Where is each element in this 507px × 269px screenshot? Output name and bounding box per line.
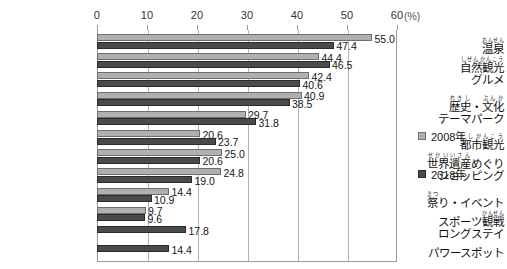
bar-value-label-5-series-1: 23.7 xyxy=(218,137,238,148)
category-label-10: ロングステイ xyxy=(412,229,507,241)
category-label-0: 温泉おんせん xyxy=(412,37,507,56)
legend-item-2018: 2018年 xyxy=(418,166,504,182)
chart-legend: 2008年 2018年 xyxy=(418,128,504,204)
bar-value-label-7-series-1: 19.0 xyxy=(195,176,215,187)
bar-8-series-1 xyxy=(97,195,152,202)
legend-label-2018: 2018年 xyxy=(431,166,466,182)
bar-0-series-0 xyxy=(97,34,372,41)
legend-item-2008: 2008年 xyxy=(418,128,504,144)
bar-5-series-1 xyxy=(97,138,216,145)
category-label-3: 歴史れきし・文化ぶんか xyxy=(412,95,507,114)
x-tick-label-50: 50 xyxy=(341,9,354,21)
bar-7-series-1 xyxy=(97,176,192,183)
x-tick-label-0: 0 xyxy=(94,9,100,21)
bar-9-series-0 xyxy=(97,207,146,214)
bar-10-series-1 xyxy=(97,226,186,233)
bar-5-series-0 xyxy=(97,130,200,137)
x-tick-mark-60 xyxy=(397,25,398,30)
x-axis-unit-label: (%) xyxy=(404,10,420,22)
bar-value-label-0-series-0: 55.0 xyxy=(375,34,395,45)
category-label-4: テーマパーク xyxy=(412,114,507,126)
bar-value-label-7-series-0: 24.8 xyxy=(224,168,244,179)
bar-0-series-1 xyxy=(97,42,334,49)
legend-swatch-icon-2018 xyxy=(418,170,426,178)
bar-value-label-11-series-1: 14.4 xyxy=(172,245,192,256)
bar-3-series-0 xyxy=(97,92,302,99)
bar-value-label-1-series-1: 46.5 xyxy=(332,60,352,71)
bar-1-series-0 xyxy=(97,53,319,60)
bar-2-series-1 xyxy=(97,80,300,87)
x-tick-label-60: 60 xyxy=(391,9,404,21)
category-label-11: パワースポット xyxy=(412,248,507,260)
x-axis: 0102030405060 (%) xyxy=(0,0,507,30)
category-label-9: スポーツ観戦かんせん xyxy=(412,210,507,229)
bar-6-series-1 xyxy=(97,157,200,164)
bar-value-label-8-series-1: 10.9 xyxy=(154,195,174,206)
bar-3-series-1 xyxy=(97,99,290,106)
bar-chart: 0102030405060 (%) 温泉おんせん自然観光しぜんかんこうグルメ歴史… xyxy=(0,0,507,269)
bar-value-label-6-series-0: 25.0 xyxy=(225,149,245,160)
bar-value-label-9-series-1: 9.6 xyxy=(148,214,163,225)
bar-value-label-0-series-1: 47.4 xyxy=(337,41,357,52)
legend-swatch-icon-2008 xyxy=(418,132,426,140)
bar-2-series-0 xyxy=(97,72,309,79)
bar-4-series-0 xyxy=(97,111,246,118)
bar-value-label-2-series-1: 40.6 xyxy=(303,80,323,91)
x-tick-label-10: 10 xyxy=(141,9,154,21)
category-label-1: 自然観光しぜんかんこう xyxy=(412,56,507,75)
x-tick-label-40: 40 xyxy=(291,9,304,21)
bar-9-series-1 xyxy=(97,214,145,221)
x-tick-label-20: 20 xyxy=(191,9,204,21)
bar-4-series-1 xyxy=(97,118,256,125)
bar-value-label-10-series-1: 17.8 xyxy=(189,226,209,237)
bar-11-series-1 xyxy=(97,245,169,252)
bar-value-label-4-series-1: 31.8 xyxy=(259,118,279,129)
legend-label-2008: 2008年 xyxy=(431,128,466,144)
category-label-2: グルメ xyxy=(412,75,507,87)
x-tick-label-30: 30 xyxy=(241,9,254,21)
bar-value-label-3-series-1: 38.5 xyxy=(292,99,312,110)
bar-value-label-8-series-0: 14.4 xyxy=(172,187,192,198)
bar-value-label-6-series-1: 20.6 xyxy=(203,156,223,167)
bar-1-series-1 xyxy=(97,61,330,68)
